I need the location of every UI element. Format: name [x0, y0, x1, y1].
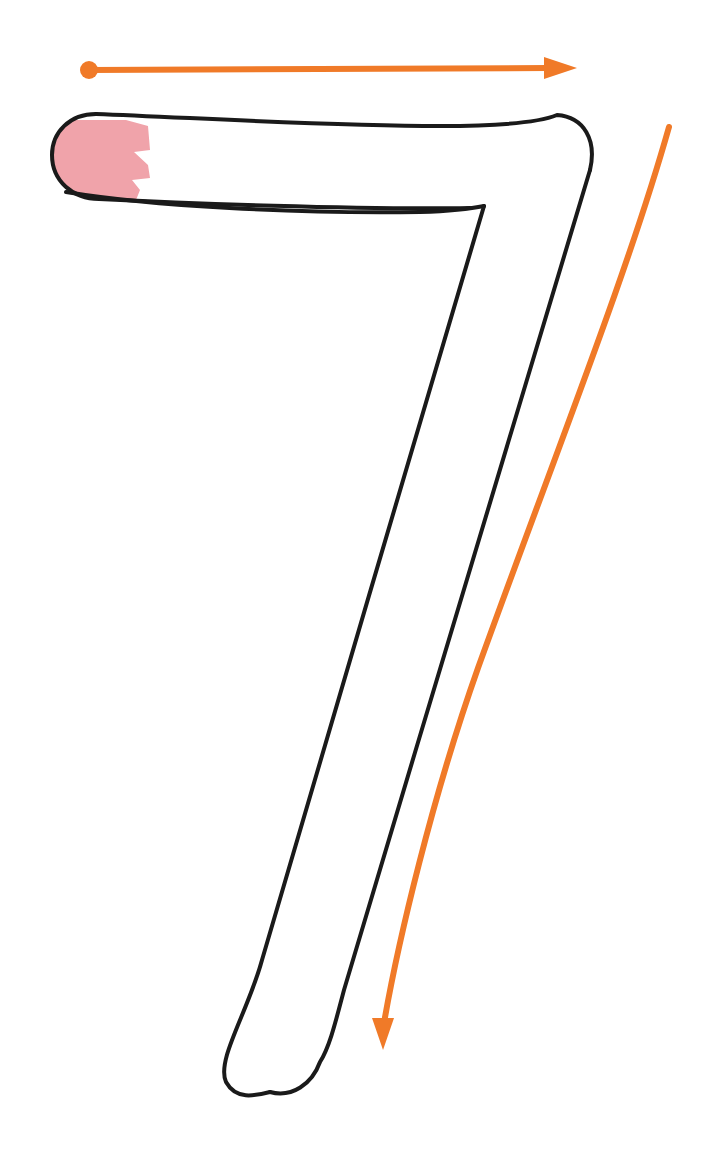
glyph-group: [48, 114, 592, 1097]
stroke-start-highlight: [48, 120, 150, 202]
arrow-horizontal-shaft: [89, 68, 548, 70]
arrow-horizontal-head: [544, 57, 577, 79]
diagram-canvas: Outlined handwriting glyph of the numera…: [0, 0, 706, 1150]
digit-seven-stroke-guide: Outlined handwriting glyph of the numera…: [0, 0, 706, 1150]
start-highlight-group: [48, 120, 150, 202]
seven-outer-body: [52, 114, 592, 1097]
arrow-horizontal-rightward: [80, 57, 577, 79]
arrow-diagonal-head: [372, 1018, 394, 1050]
